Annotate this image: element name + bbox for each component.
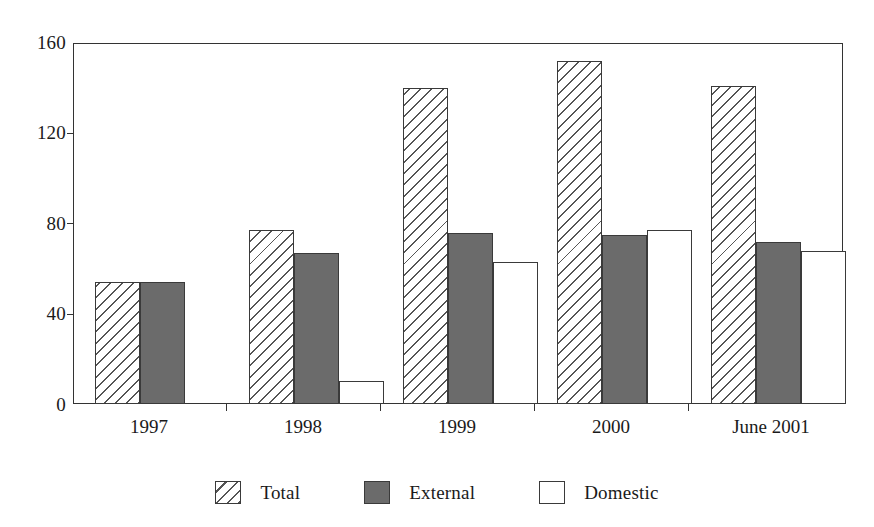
bar-1998-total[interactable]: [249, 230, 294, 404]
legend-item-total[interactable]: Total: [215, 481, 300, 504]
legend-label-total: Total: [260, 483, 300, 502]
bars-layer: [0, 0, 874, 527]
bar-chart: 160 120 80 40 0 1997 1998: [0, 0, 874, 527]
x-tick-label-2000: 2000: [592, 416, 630, 438]
bar-1999-domestic[interactable]: [493, 262, 538, 404]
x-tick-label-1999: 1999: [438, 416, 476, 438]
bar-2000-domestic[interactable]: [647, 230, 692, 404]
x-tick-label-1997: 1997: [130, 416, 168, 438]
x-axis: 1997 1998 1999 2000 June 2001: [0, 416, 874, 446]
bar-1998-domestic[interactable]: [339, 381, 384, 404]
bar-1997-external[interactable]: [140, 282, 185, 404]
legend-swatch-total-icon: [215, 481, 241, 504]
legend-item-external[interactable]: External: [364, 481, 475, 504]
bar-june2001-external[interactable]: [756, 242, 801, 404]
chart-legend: Total External Domestic: [0, 472, 874, 512]
bar-2000-total[interactable]: [557, 61, 602, 404]
x-tick-label-june-2001: June 2001: [732, 416, 810, 438]
legend-label-domestic: Domestic: [584, 483, 658, 502]
bar-june2001-total[interactable]: [711, 86, 756, 404]
bar-2000-external[interactable]: [602, 235, 647, 404]
legend-swatch-domestic-icon: [539, 481, 565, 504]
bar-june2001-domestic[interactable]: [801, 251, 846, 404]
bar-1999-external[interactable]: [448, 233, 493, 404]
legend-swatch-external-icon: [364, 481, 390, 504]
x-tick-label-1998: 1998: [284, 416, 322, 438]
bar-1998-external[interactable]: [294, 253, 339, 404]
legend-item-domestic[interactable]: Domestic: [539, 481, 658, 504]
bar-1999-total[interactable]: [403, 88, 448, 404]
legend-label-external: External: [409, 483, 475, 502]
bar-1997-total[interactable]: [95, 282, 140, 404]
